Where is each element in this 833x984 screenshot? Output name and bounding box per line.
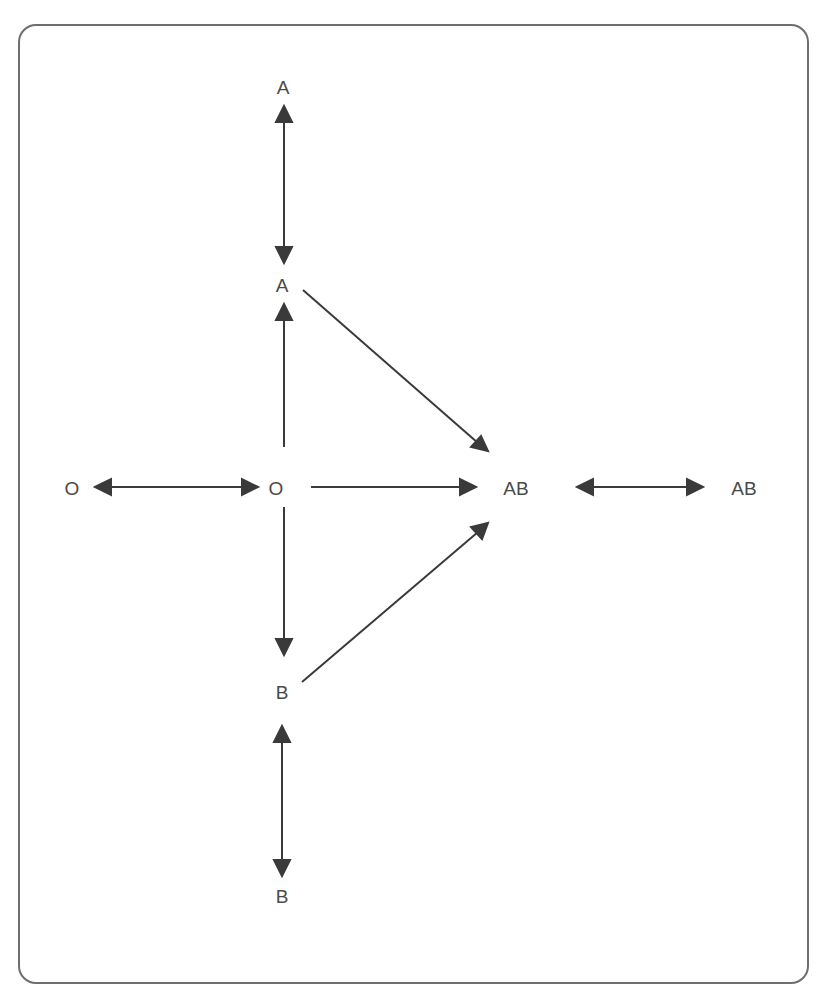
arrowhead-right-icon <box>460 479 476 495</box>
edge-o-left-o-center <box>95 479 258 495</box>
node-o-left: O <box>65 478 80 499</box>
node-o-center: O <box>269 478 284 499</box>
arrowhead-right-icon <box>687 479 703 495</box>
arrowhead-down-icon <box>276 247 292 263</box>
arrowhead-down-icon <box>276 639 292 655</box>
edge-o-center-a-mid <box>276 304 292 447</box>
edge-ab-center-ab-right <box>577 479 703 495</box>
arrowhead-up-icon <box>276 304 292 320</box>
arrowhead-left-icon <box>95 479 111 495</box>
node-b-bottom: B <box>276 886 289 907</box>
node-ab-right: AB <box>731 478 756 499</box>
node-a-top: A <box>277 77 290 98</box>
edge-o-center-b-mid <box>276 507 292 655</box>
node-ab-center: AB <box>503 478 528 499</box>
edge-b-mid-b-bottom <box>274 726 290 876</box>
edge-o-center-ab-center <box>311 479 476 495</box>
arrowhead-up-icon <box>276 106 292 122</box>
node-a-mid: A <box>276 275 289 296</box>
edge-a-top-a-mid <box>276 106 292 263</box>
arrowhead-right-icon <box>242 479 258 495</box>
arrowhead-left-icon <box>577 479 593 495</box>
arrowhead-down-icon <box>274 860 290 876</box>
edge-a-mid-ab-center <box>303 290 488 451</box>
edge-b-mid-ab-center <box>302 523 488 682</box>
arrowhead-up-icon <box>274 726 290 742</box>
node-b-mid: B <box>276 682 289 703</box>
